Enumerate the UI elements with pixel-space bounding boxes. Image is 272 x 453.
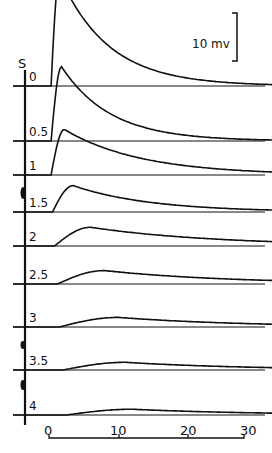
trace-2 <box>13 227 272 246</box>
stim-label: S <box>18 58 26 70</box>
trace-label: 3 <box>29 312 37 324</box>
x-tick-20: 20 <box>180 423 197 438</box>
trace-3.5 <box>13 362 272 370</box>
time-axis <box>49 434 244 438</box>
trace-label: 3.5 <box>29 355 48 367</box>
trace-group <box>13 0 272 415</box>
x-tick-0: 0 <box>44 423 52 438</box>
scale-bar-label: 10 mv <box>192 38 230 50</box>
figure-canvas <box>0 0 272 453</box>
trace-1.5 <box>13 186 272 212</box>
x-tick-10: 10 <box>110 423 127 438</box>
trace-4 <box>13 409 272 415</box>
trace-label: 2 <box>29 231 37 243</box>
trace-label: 0 <box>29 71 37 83</box>
trace-label: 2.5 <box>29 269 48 281</box>
trace-label: 0.5 <box>29 126 48 138</box>
trace-2.5 <box>13 271 272 284</box>
trace-3 <box>13 317 272 327</box>
trace-label: 1 <box>29 160 37 172</box>
scale-bar <box>232 13 237 61</box>
trace-label: 4 <box>29 400 37 412</box>
trace-label: 1.5 <box>29 197 48 209</box>
x-tick-30: 30 <box>240 423 257 438</box>
